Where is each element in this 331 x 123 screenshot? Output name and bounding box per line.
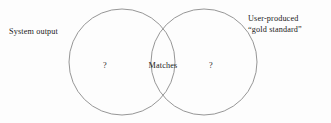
left-only-region-text: ?: [92, 61, 118, 71]
right-circle-label-line1: User-produced: [248, 14, 326, 25]
intersection-region-text: Matches: [140, 61, 186, 71]
right-circle-label-line2: “gold standard”: [248, 25, 326, 36]
right-circle-label: User-produced “gold standard”: [248, 14, 326, 35]
left-circle-label: System output: [9, 27, 58, 38]
right-only-region-text: ?: [198, 61, 224, 71]
left-circle-label-line: System output: [9, 27, 58, 38]
venn-diagram-figure: System output User-produced “gold standa…: [0, 0, 331, 123]
